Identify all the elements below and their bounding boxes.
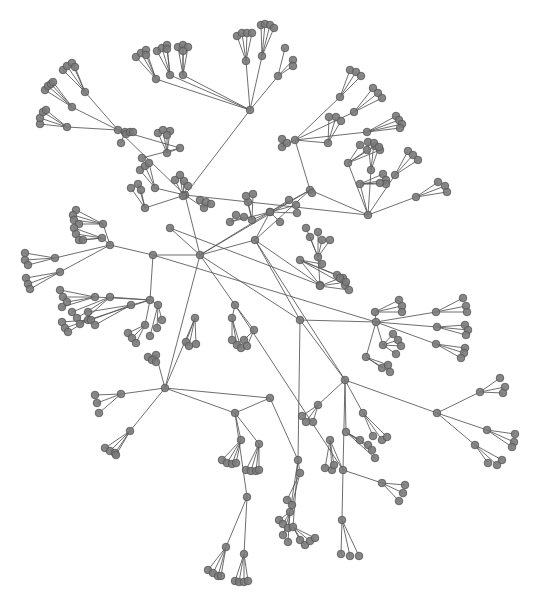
leaf-node <box>369 432 377 440</box>
leaf-node <box>462 331 470 339</box>
leaf-node <box>302 224 310 232</box>
leaf-node <box>330 461 338 469</box>
branch-node <box>258 52 266 60</box>
edge-layer <box>25 24 515 582</box>
edge <box>376 312 436 322</box>
edge <box>150 255 153 300</box>
edge <box>165 388 270 398</box>
leaf-node <box>302 418 310 426</box>
edge <box>298 320 300 460</box>
leaf-node <box>146 332 154 340</box>
edge <box>25 253 55 258</box>
edge <box>53 82 72 107</box>
edge <box>142 148 180 158</box>
leaf-node <box>95 409 103 417</box>
leaf-node <box>153 324 161 332</box>
branch-node <box>286 508 294 516</box>
branch-node <box>342 428 350 436</box>
branch-node <box>378 479 386 487</box>
edge <box>366 322 376 357</box>
edge <box>235 305 254 330</box>
edge <box>295 140 310 190</box>
edge <box>63 70 85 92</box>
leaf-node <box>24 261 32 269</box>
leaf-node <box>117 139 125 147</box>
hub-node <box>266 394 274 402</box>
edge <box>99 394 121 413</box>
branch-node <box>371 308 379 316</box>
hub-node <box>433 409 441 417</box>
hub-node <box>246 106 254 114</box>
hub-node <box>166 224 174 232</box>
branch-node <box>483 426 491 434</box>
leaf-node <box>463 308 471 316</box>
leaf-node <box>396 124 404 132</box>
edge <box>367 116 396 132</box>
leaf-node <box>309 418 317 426</box>
leaf-node <box>371 454 379 462</box>
leaf-node <box>64 328 72 336</box>
leaf-node <box>368 446 376 454</box>
leaf-node <box>84 308 92 316</box>
leaf-node <box>137 186 145 194</box>
edge <box>343 470 382 483</box>
leaf-node <box>457 354 465 362</box>
leaf-node <box>392 350 400 358</box>
branch-node <box>179 71 187 79</box>
leaf-node <box>337 550 345 558</box>
branch-node <box>163 149 171 157</box>
branch-node <box>154 301 162 309</box>
branch-node <box>141 321 149 329</box>
edge <box>343 380 345 470</box>
edge <box>261 25 262 56</box>
leaf-node <box>292 201 300 209</box>
branch-node <box>63 123 71 131</box>
edge <box>340 76 361 97</box>
leaf-node <box>398 308 406 316</box>
leaf-node <box>248 29 256 37</box>
hub-node <box>291 136 299 144</box>
edge <box>354 88 373 112</box>
edge <box>55 245 110 258</box>
leaf-node <box>276 218 284 226</box>
edge <box>136 57 156 79</box>
leaf-node <box>184 182 192 190</box>
leaf-node <box>397 342 405 350</box>
branch-node <box>237 436 245 444</box>
branch-node <box>250 326 258 334</box>
leaf-node <box>185 342 193 350</box>
branch-node <box>248 216 256 224</box>
leaf-node <box>217 572 225 580</box>
hub-node <box>231 409 239 417</box>
branch-node <box>324 139 332 147</box>
hub-node <box>196 251 204 259</box>
hub-node <box>146 296 154 304</box>
hub-node <box>149 251 157 259</box>
branch-node <box>296 256 304 264</box>
branch-node <box>226 218 234 226</box>
branch-node <box>367 166 375 174</box>
leaf-node <box>357 72 365 80</box>
leaf-node <box>325 113 333 121</box>
edge <box>376 322 437 327</box>
branch-node <box>359 409 367 417</box>
edge <box>91 305 131 320</box>
edge <box>85 92 118 130</box>
branch-node <box>266 208 274 216</box>
leaf-node <box>508 443 516 451</box>
leaf-node <box>232 459 240 467</box>
leaf-node <box>127 184 135 192</box>
leaf-node <box>21 249 29 257</box>
branch-node <box>151 184 159 192</box>
branch-node <box>326 436 334 444</box>
edge <box>318 380 345 405</box>
branch-node <box>296 469 304 477</box>
leaf-node <box>414 156 422 164</box>
edge <box>436 298 463 312</box>
edge <box>345 380 346 432</box>
edge <box>183 75 250 110</box>
leaf-node <box>179 47 187 55</box>
leaf-node <box>91 321 99 329</box>
leaf-node <box>129 128 137 136</box>
edge <box>300 320 345 380</box>
